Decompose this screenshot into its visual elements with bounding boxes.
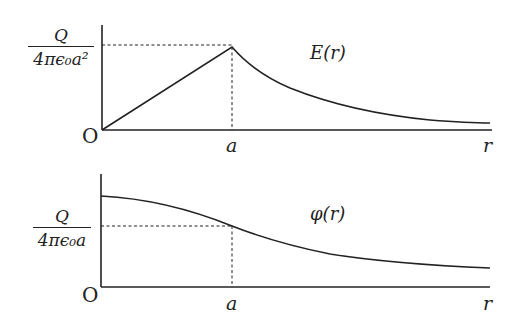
potential-curve-label: φ(r) [310,203,345,224]
bottom-y-tick-label: Q 4πϵ₀a [33,207,91,250]
top-y-tick-numerator: Q [28,26,94,44]
potential-curve [101,196,490,268]
top-y-tick-denominator: 4πϵ₀a² [28,49,94,69]
e-field-curve-label: E(r) [310,42,346,63]
top-x-axis-label: r [483,134,492,156]
fraction-bar [33,227,91,228]
e-field-curve [102,47,490,130]
top-x-tick-a: a [226,134,237,156]
bottom-y-tick-denominator: 4πϵ₀a [33,230,91,250]
bottom-y-tick-numerator: Q [33,207,91,225]
bottom-plot [101,174,490,287]
bottom-x-tick-a: a [226,292,237,314]
bottom-origin-label: O [82,283,98,307]
top-y-tick-label: Q 4πϵ₀a² [28,26,94,69]
top-origin-label: O [82,124,98,148]
fraction-bar [28,46,94,47]
top-plot [102,25,492,130]
bottom-x-axis-label: r [483,292,492,314]
